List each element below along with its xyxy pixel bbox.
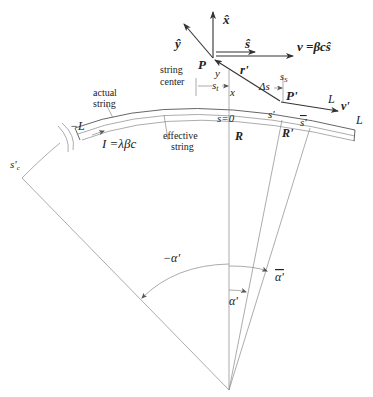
s-s-label: sS — [280, 71, 288, 84]
P-label: P — [198, 57, 207, 72]
s-prime-c-label: s'c — [10, 158, 21, 172]
R-label: R — [234, 129, 243, 143]
P-prime-label: P' — [286, 88, 298, 103]
y-hat-arrow — [184, 24, 213, 58]
labels: x̂ ŷ ŝ v =βcŝ P r' y string center st x … — [10, 12, 363, 308]
outer-arc — [22, 143, 60, 178]
x-hat-label: x̂ — [222, 12, 230, 27]
x-label: x — [229, 86, 235, 98]
alpha-bar-label: α' — [275, 270, 284, 284]
radius-s-prime-c — [22, 178, 229, 390]
L-end-label: L — [355, 113, 363, 127]
string-geometry-diagram: x̂ ŷ ŝ v =βcŝ P r' y string center st x … — [0, 0, 373, 397]
effective-string-label-1: effective — [163, 130, 198, 141]
radius-s-bar — [229, 128, 310, 390]
delta-s-label: Δs — [258, 80, 270, 92]
r-prime-label: r' — [240, 62, 249, 77]
velocity-label: v =βcŝ — [297, 39, 332, 54]
minus-L-label: −L — [70, 119, 85, 133]
minus-alpha-arc — [142, 264, 229, 298]
current-label: I =λβc — [101, 136, 136, 151]
radius-R-prime — [229, 120, 282, 390]
alpha-bar-arc — [229, 266, 267, 271]
s-zero-label: s=0 — [217, 112, 235, 124]
unit-vectors — [184, 12, 293, 58]
actual-string-label-1: actual — [93, 87, 117, 98]
effective-string-label-2: string — [171, 141, 194, 152]
y-label: y — [214, 67, 220, 79]
L-v-label: L — [327, 92, 335, 106]
string-end-cap — [354, 130, 355, 141]
v-prime-label: v' — [341, 99, 350, 113]
alpha-label: α' — [229, 294, 238, 308]
alpha-arc — [229, 290, 246, 292]
string-center-label-2: center — [160, 76, 185, 87]
s-prime-label: s' — [268, 108, 275, 120]
s-t-label: st — [212, 79, 219, 93]
y-hat-label: ŷ — [173, 36, 181, 51]
R-prime-label: R' — [281, 126, 294, 140]
actual-string-label-2: string — [93, 98, 116, 109]
minus-alpha-label: −α' — [163, 251, 180, 265]
s-bar-prime-label: s' — [300, 116, 307, 128]
s-hat-label: ŝ — [244, 36, 251, 51]
string-center-label-1: string — [160, 64, 183, 75]
